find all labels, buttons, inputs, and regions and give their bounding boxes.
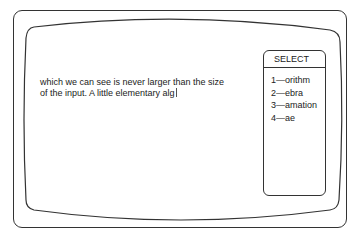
editor-line-2-text: of the input. A little elementary alg [40,88,175,98]
editor-line-2: of the input. A little elementary alg [40,88,224,99]
text-cursor [176,88,177,97]
editor-line-1: which we can see is never larger than th… [40,77,224,88]
completion-option-2[interactable]: 2—ebra [271,87,325,100]
completion-option-4[interactable]: 4—ae [271,112,325,125]
completion-list: 1—orithm 2—ebra 3—amation 4—ae [264,68,325,124]
select-panel-title: SELECT [264,51,325,68]
completion-option-3[interactable]: 3—amation [271,99,325,112]
completion-option-1[interactable]: 1—orithm [271,74,325,87]
select-panel: SELECT 1—orithm 2—ebra 3—amation 4—ae [263,50,326,196]
editor-text[interactable]: which we can see is never larger than th… [40,77,224,99]
